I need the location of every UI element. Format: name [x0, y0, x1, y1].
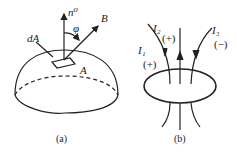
normal-label: n⁰ — [68, 6, 79, 18]
current-i3-sign: (−) — [214, 38, 228, 51]
current-middle-arrow — [177, 52, 183, 60]
element-label: dA — [27, 32, 40, 44]
surface-label: A — [79, 64, 87, 76]
current-i3-lower — [191, 103, 200, 127]
caption-b: (b) — [174, 133, 186, 145]
current-i1-lower — [162, 103, 170, 127]
caption-a: (a) — [56, 133, 67, 145]
hemisphere-base-front — [15, 95, 118, 113]
current-i2-sign: (+) — [162, 32, 176, 45]
current-i1-sign: (+) — [143, 58, 157, 71]
hemisphere-base-back — [15, 76, 118, 95]
current-i2-label: I₂ — [152, 22, 161, 34]
figure-a — [15, 14, 118, 113]
angle-label: φ — [73, 22, 79, 34]
current-i1-arrow — [163, 48, 167, 56]
field-label: B — [101, 12, 108, 24]
figure-b — [144, 24, 216, 130]
current-i3-arrow — [193, 50, 199, 58]
current-i1-label: I₁ — [137, 44, 146, 56]
current-i3-label: I₃ — [211, 24, 220, 36]
diagram-canvas: n⁰ B φ dA A (a) I₂ (+) I₁ (+) I₃ (−) (b) — [0, 0, 237, 156]
